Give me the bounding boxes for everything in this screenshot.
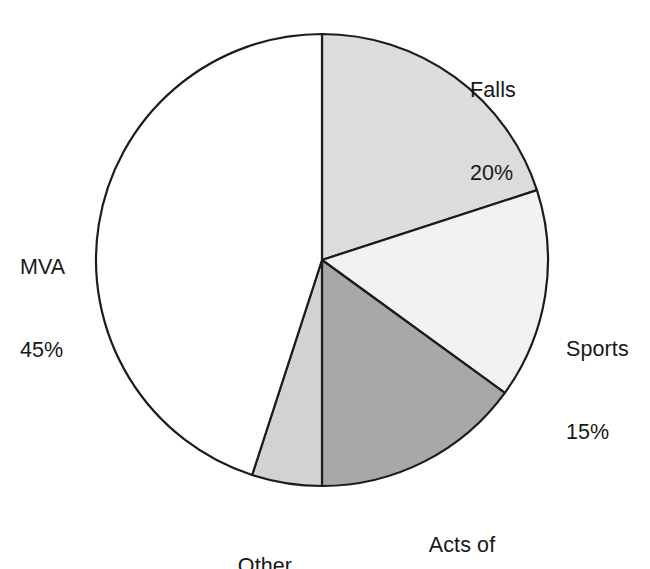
pie-label-sports-name: Sports <box>566 336 629 364</box>
pie-label-acts-of-violence-name-line1: Acts of <box>392 532 532 560</box>
pie-label-sports: Sports 15% <box>566 281 629 501</box>
pie-label-falls: Falls 20% <box>470 22 516 242</box>
pie-label-mva: MVA 45% <box>20 199 65 419</box>
pie-label-acts-of-violence: Acts of violence 15% <box>392 477 532 569</box>
pie-chart-canvas <box>0 0 650 569</box>
pie-label-other: Other 5% <box>205 498 325 569</box>
pie-chart: Falls 20% Sports 15% Acts of violence 15… <box>0 0 650 569</box>
pie-label-mva-name: MVA <box>20 254 65 282</box>
pie-label-mva-percent: 45% <box>20 337 65 365</box>
pie-label-falls-name: Falls <box>470 77 516 105</box>
pie-label-other-name: Other <box>205 553 325 569</box>
pie-label-falls-percent: 20% <box>470 160 516 188</box>
pie-label-sports-percent: 15% <box>566 419 629 447</box>
